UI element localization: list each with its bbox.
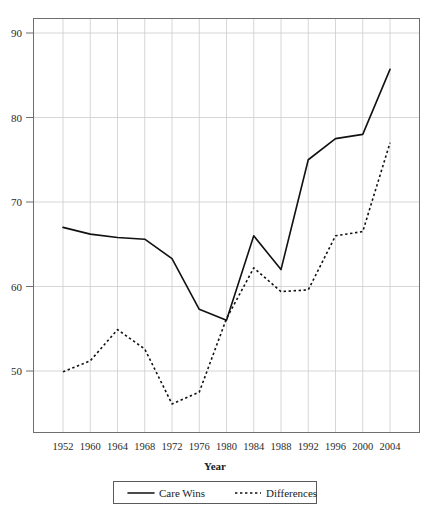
y-axis-tick-label: 70 bbox=[11, 196, 23, 208]
x-axis-title: Year bbox=[204, 460, 226, 472]
x-axis-tick-label: 1968 bbox=[134, 441, 155, 452]
y-axis-tick-label: 80 bbox=[11, 112, 23, 124]
legend-label: Care Wins bbox=[159, 487, 205, 499]
y-axis-tick-label: 90 bbox=[11, 27, 23, 39]
x-axis-tick-label: 2004 bbox=[380, 441, 402, 452]
x-axis-tick-label: 1984 bbox=[243, 441, 265, 452]
x-axis-tick-label: 1952 bbox=[53, 441, 74, 452]
x-axis-tick-label: 1988 bbox=[271, 441, 292, 452]
x-axis-tick-label: 2000 bbox=[352, 441, 373, 452]
x-axis-tick-label: 1992 bbox=[298, 441, 319, 452]
x-axis-tick-label: 1960 bbox=[80, 441, 101, 452]
y-axis-tick-label: 60 bbox=[11, 281, 23, 293]
x-axis-tick-label: 1964 bbox=[107, 441, 129, 452]
chart-canvas: 5060708090 19521960196419681972197619801… bbox=[0, 0, 430, 515]
legend-label: Differences bbox=[266, 487, 317, 499]
chart-background bbox=[0, 0, 430, 515]
x-axis-tick-label: 1980 bbox=[216, 441, 237, 452]
line-chart: 5060708090 19521960196419681972197619801… bbox=[0, 0, 430, 515]
x-axis-tick-label: 1996 bbox=[325, 441, 346, 452]
x-axis-tick-label: 1972 bbox=[162, 441, 183, 452]
x-axis-tick-label: 1976 bbox=[189, 441, 210, 452]
y-axis-tick-label: 50 bbox=[11, 365, 23, 377]
